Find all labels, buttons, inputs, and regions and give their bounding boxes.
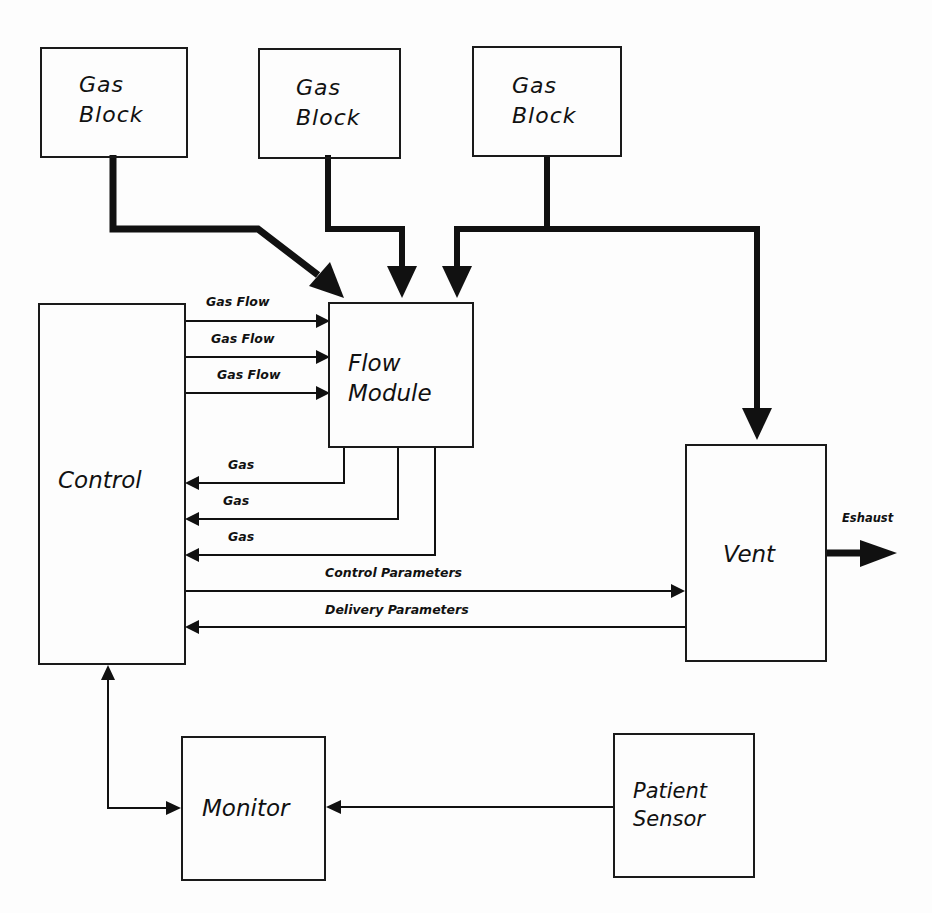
vent-label: Vent xyxy=(723,541,775,567)
patient-sensor-label-line2: Sensor xyxy=(633,807,705,831)
gas-block-1: Gas Block xyxy=(40,47,188,158)
gas-block-2-label-line1: Gas xyxy=(296,75,341,100)
monitor-block: Monitor xyxy=(181,736,326,881)
gas-flow-label-2: Gas Flow xyxy=(211,332,274,346)
flow-module: Flow Module xyxy=(328,302,474,448)
feed-gasblock3-to-flowmodule-and-vent xyxy=(442,155,772,440)
gas-flow-label-3: Gas Flow xyxy=(217,368,280,382)
gas-block-2: Gas Block xyxy=(258,48,401,159)
gas-block-3-label-line1: Gas xyxy=(512,73,557,98)
sensor-monitor-link xyxy=(326,800,613,814)
gas-flow-label-1: Gas Flow xyxy=(206,295,269,309)
feed-gasblock1-to-flowmodule xyxy=(113,155,344,298)
gas-block-1-label-line2: Block xyxy=(79,102,144,127)
flow-module-label-line1: Flow xyxy=(348,350,401,376)
vent-block: Vent xyxy=(685,444,827,662)
delivery-parameters-label: Delivery Parameters xyxy=(325,603,469,617)
gas-return-label-1: Gas xyxy=(228,458,254,472)
patient-sensor-label-line1: Patient xyxy=(633,779,707,803)
flow-module-label-line2: Module xyxy=(348,380,432,406)
feed-gasblock2-to-flowmodule xyxy=(328,155,417,298)
gas-block-3: Gas Block xyxy=(472,46,622,157)
exhaust-label: Eshaust xyxy=(842,512,893,525)
patient-sensor-block: Patient Sensor xyxy=(613,733,755,878)
block-diagram: Gas Block Gas Block Gas Block Flow Modul… xyxy=(0,0,932,913)
gas-block-1-label-line1: Gas xyxy=(79,72,124,97)
monitor-label: Monitor xyxy=(202,795,289,821)
control-block: Control xyxy=(38,303,186,665)
gas-block-2-label-line2: Block xyxy=(296,105,361,130)
gas-flow-arrows xyxy=(185,314,330,400)
gas-return-label-3: Gas xyxy=(228,530,254,544)
exhaust-arrow xyxy=(826,540,897,567)
control-parameters-label: Control Parameters xyxy=(325,566,462,580)
gas-block-3-label-line2: Block xyxy=(512,103,577,128)
monitor-control-link xyxy=(101,665,181,815)
control-label: Control xyxy=(58,467,142,493)
gas-return-label-2: Gas xyxy=(223,494,249,508)
